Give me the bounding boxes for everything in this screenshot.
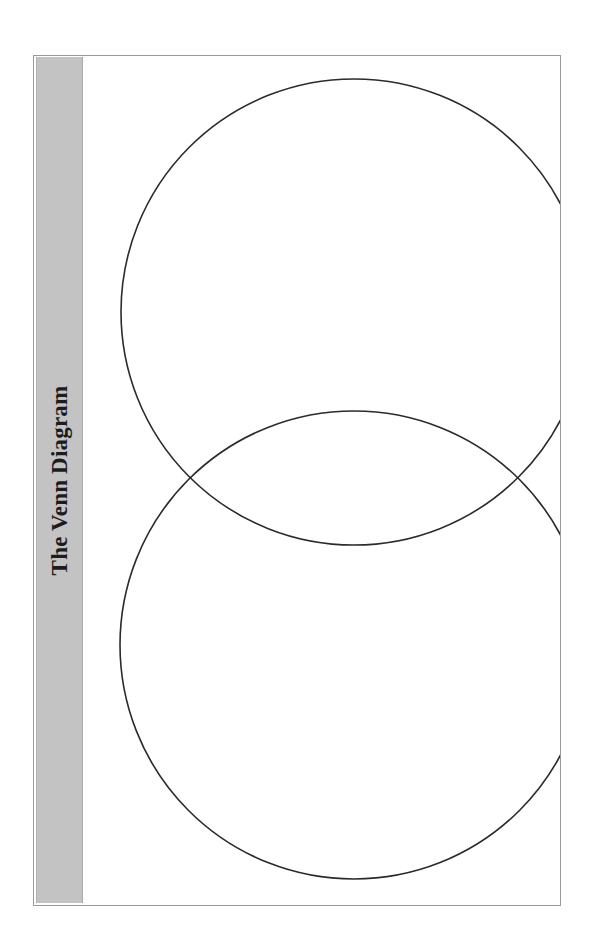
venn-drawing-area: [83, 56, 560, 905]
page-sheet: The Venn Diagram: [33, 55, 561, 906]
venn-circle-bottom[interactable]: [120, 411, 560, 879]
venn-circle-top[interactable]: [121, 79, 560, 545]
title-band: The Venn Diagram: [36, 57, 83, 903]
page-title: The Venn Diagram: [48, 385, 71, 575]
title-band-inner: The Venn Diagram: [48, 385, 71, 575]
venn-diagram-svg: [83, 56, 560, 905]
venn-diagram-worksheet: The Venn Diagram: [0, 0, 598, 952]
